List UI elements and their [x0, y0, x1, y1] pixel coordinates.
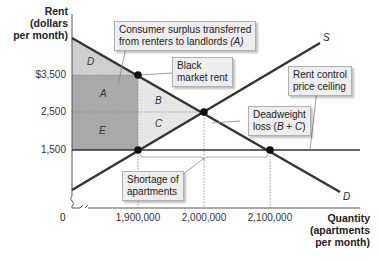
area-label-e: E	[99, 125, 106, 136]
callout-rent-control-line2: price ceiling	[293, 81, 347, 93]
y-tick-2500: 2,500	[18, 106, 66, 117]
x-title-line-3: per month)	[296, 236, 370, 248]
demand-label: D	[343, 191, 350, 202]
callout-deadweight-line2: loss (B + C)	[253, 121, 306, 133]
callout-area-ref: (A)	[230, 36, 243, 47]
area-label-c: C	[155, 118, 162, 129]
x-title-line-1: Quantity	[296, 212, 370, 224]
equilibrium-point	[200, 108, 208, 116]
area-label-d: D	[87, 56, 94, 67]
demand-at-ceiling-point	[266, 146, 274, 154]
callout-shortage-line2: apartments	[127, 186, 179, 198]
y-axis-title: Rent (dollars per month)	[10, 5, 68, 41]
callout-deadweight-loss: Deadweight loss (B + C)	[248, 106, 311, 136]
y-axis-break	[71, 196, 74, 208]
supply-at-ceiling-point	[134, 146, 142, 154]
supply-label: S	[323, 32, 330, 43]
x-tick-2100000: 2,100,000	[238, 212, 302, 223]
x-tick-1900000: 1,900,000	[106, 212, 170, 223]
area-label-b: B	[155, 95, 162, 106]
callout-consumer-surplus: Consumer surplus transferred from renter…	[114, 21, 256, 51]
area-label-a: A	[100, 88, 107, 99]
callout-consumer-surplus-line1: Consumer surplus transferred	[119, 24, 251, 36]
area-a-e	[72, 75, 138, 150]
x-axis-title: Quantity (apartments per month)	[296, 212, 370, 248]
y-tick-1500: 1,500	[18, 144, 66, 155]
dw-b: B	[277, 121, 284, 132]
callout-shortage: Shortage of apartments	[122, 171, 184, 201]
callout-text: from renters to landlords	[119, 36, 230, 47]
y-title-line-1: Rent	[10, 5, 68, 17]
callout-rent-control-line1: Rent control	[293, 69, 347, 81]
y-tick-3500: $3,500	[18, 69, 66, 80]
callout-black-market-line2: market rent	[177, 72, 228, 84]
callout-shortage-line1: Shortage of	[127, 174, 179, 186]
origin-label: 0	[60, 212, 66, 223]
callout-black-market: Black market rent	[172, 57, 233, 87]
dw-pre: loss (	[253, 121, 277, 132]
callout-consumer-surplus-line2: from renters to landlords (A)	[119, 36, 251, 48]
x-title-line-2: (apartments	[296, 224, 370, 236]
callout-rent-control: Rent control price ceiling	[288, 66, 352, 96]
callout-black-market-line1: Black	[177, 60, 228, 72]
x-tick-2000000: 2,000,000	[172, 212, 236, 223]
y-title-line-2: (dollars	[10, 17, 68, 29]
callout-deadweight-line1: Deadweight	[253, 109, 306, 121]
dw-plus: +	[284, 121, 295, 132]
black-market-point	[134, 71, 142, 79]
y-title-line-3: per month)	[10, 29, 68, 41]
x-axis-break	[80, 205, 88, 208]
dw-close: )	[302, 121, 305, 132]
